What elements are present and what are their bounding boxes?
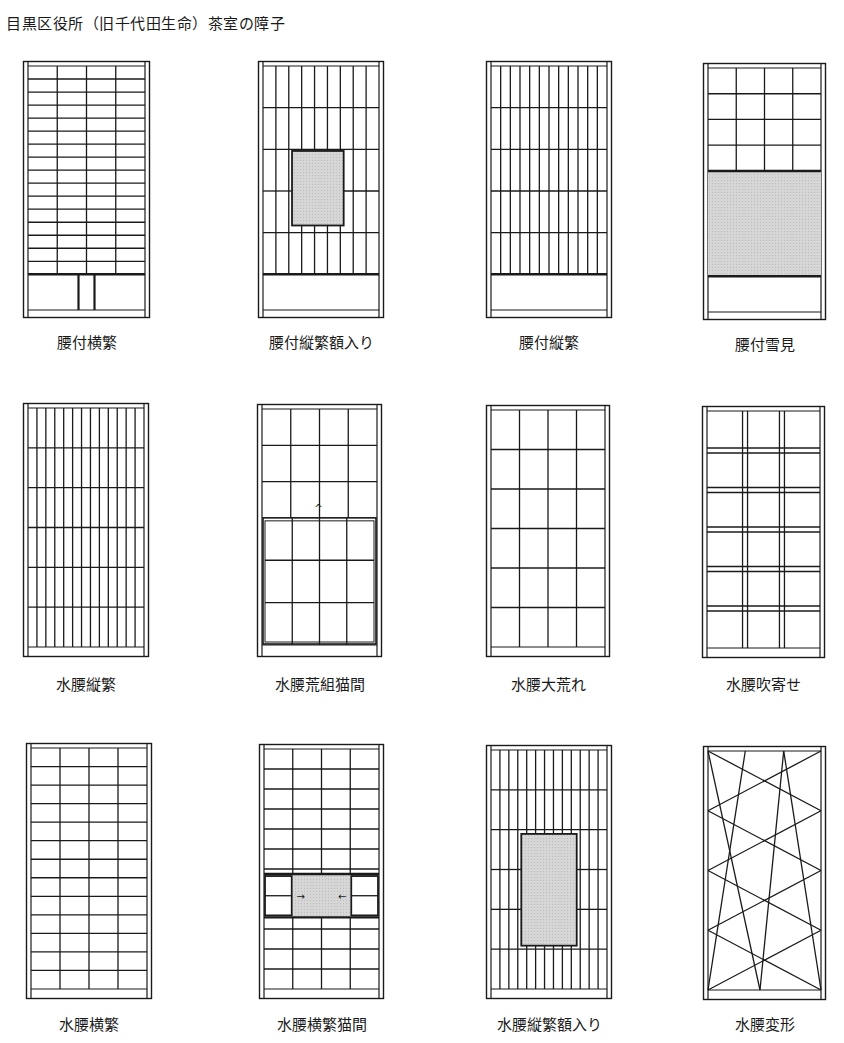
panel-caption: 水腰大荒れ: [511, 673, 586, 694]
shoji-panel-p8: [702, 406, 825, 658]
shoji-drawing: [702, 406, 825, 658]
shoji-drawing: [486, 61, 612, 318]
shoji-drawing: [23, 403, 149, 657]
panel-caption: 腰付雪見: [735, 333, 795, 354]
shoji-panel-p7: [486, 405, 610, 657]
shoji-panel-p5: [23, 403, 149, 657]
panel-caption: 水腰吹寄せ: [726, 673, 801, 694]
shoji-drawing: [703, 63, 826, 320]
shoji-drawing: →←: [259, 744, 384, 999]
shoji-panel-p4: [703, 63, 826, 320]
panel-caption: 腰付縦繁額入り: [269, 331, 374, 352]
shoji-panel-p9: [26, 743, 152, 999]
panel-caption: 水腰縦繁: [56, 673, 116, 694]
panel-caption: 腰付横繁: [57, 331, 117, 352]
shoji-panel-p11: [486, 745, 612, 999]
panel-caption: 腰付縦繁: [519, 331, 579, 352]
svg-text:→: →: [297, 891, 305, 902]
shoji-drawing: [486, 745, 612, 999]
shoji-panel-p3: [486, 61, 612, 318]
shoji-drawing: ^: [257, 404, 382, 657]
panel-caption: 水腰横繁猫間: [277, 1013, 367, 1034]
shoji-drawing: [703, 746, 826, 1000]
page-title: 目黒区役所（旧千代田生命）茶室の障子: [6, 12, 285, 33]
shoji-panel-p10: →←: [259, 744, 384, 999]
shoji-panel-p1: [23, 61, 150, 318]
shoji-panel-p12: [703, 746, 826, 1000]
shoji-drawing: [26, 743, 152, 999]
svg-text:←: ←: [338, 891, 346, 902]
shoji-panel-p2: [258, 61, 384, 318]
shoji-panel-p6: ^: [257, 404, 382, 657]
panel-caption: 水腰変形: [735, 1013, 795, 1034]
shoji-drawing: [23, 61, 150, 318]
panel-caption: 水腰縦繁額入り: [497, 1013, 602, 1034]
panel-caption: 水腰荒組猫間: [275, 673, 365, 694]
svg-text:^: ^: [314, 503, 322, 514]
shoji-drawing: [486, 405, 610, 657]
shoji-drawing: [258, 61, 384, 318]
panel-caption: 水腰横繁: [59, 1013, 119, 1034]
